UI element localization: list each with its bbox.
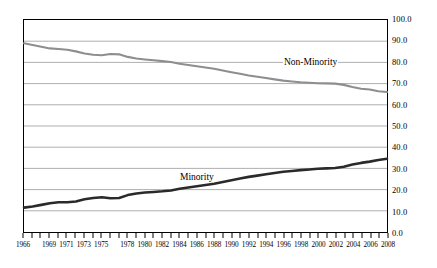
series-line-non-minority: [24, 43, 387, 92]
x-axis-tick: [327, 233, 328, 238]
x-axis-tick-label: 1996: [277, 241, 291, 249]
x-axis-tick: [240, 233, 241, 238]
x-axis-tick: [188, 233, 189, 238]
x-axis-tick: [361, 233, 362, 238]
x-axis-tick: [83, 233, 84, 238]
series-label-minority: Minority: [179, 172, 215, 182]
plot-area: [23, 19, 388, 233]
x-axis-tick-label: 1969: [42, 241, 56, 249]
x-axis-tick-label: 1980: [138, 241, 152, 249]
x-axis-tick: [275, 233, 276, 238]
x-axis-tick: [301, 233, 302, 238]
x-axis-tick-label: 1992: [242, 241, 256, 249]
x-axis-tick: [318, 233, 319, 238]
x-axis-tick-label: 1978: [120, 241, 134, 249]
x-axis-tick: [162, 233, 163, 238]
x-axis-tick: [127, 233, 128, 238]
series-label-non-minority: Non-Minority: [283, 57, 338, 67]
series-line-minority: [24, 159, 387, 208]
x-axis-tick: [205, 233, 206, 238]
x-axis-tick-label: 1998: [294, 241, 308, 249]
y-axis-tick-label: 30.0: [392, 164, 407, 173]
y-axis-tick-label: 90.0: [392, 36, 407, 45]
x-axis-tick: [266, 233, 267, 238]
x-axis-tick: [231, 233, 232, 238]
x-axis-tick: [57, 233, 58, 238]
x-axis-tick-label: 1971: [59, 241, 73, 249]
y-axis-tick-label: 70.0: [392, 79, 407, 88]
data-series-layer: [24, 20, 387, 232]
x-axis-tick: [66, 233, 67, 238]
y-axis-tick-label: 40.0: [392, 143, 407, 152]
y-axis-tick-label: 20.0: [392, 186, 407, 195]
x-axis-tick: [257, 233, 258, 238]
x-axis-tick-label: 2004: [346, 241, 360, 249]
x-axis-tick: [92, 233, 93, 238]
x-axis-tick: [379, 233, 380, 238]
y-axis-tick-label: 100.0: [392, 15, 412, 24]
x-axis-tick: [248, 233, 249, 238]
chart-container: Non-Minority Minority 0.010.020.030.040.…: [0, 0, 437, 268]
x-axis-tick-label: 1982: [155, 241, 169, 249]
x-axis-tick: [135, 233, 136, 238]
x-axis-tick: [23, 233, 24, 238]
x-axis-tick: [118, 233, 119, 238]
x-axis-tick: [222, 233, 223, 238]
x-axis-tick-label: 1975: [94, 241, 108, 249]
x-axis-tick: [109, 233, 110, 238]
x-axis-tick-label: 2000: [311, 241, 325, 249]
x-axis-tick: [214, 233, 215, 238]
x-axis-tick: [292, 233, 293, 238]
y-axis-tick-label: 0.0: [392, 229, 403, 238]
x-axis-tick: [153, 233, 154, 238]
x-axis-tick: [283, 233, 284, 238]
y-axis-tick-label: 50.0: [392, 122, 407, 131]
x-axis-tick-label: 2002: [329, 241, 343, 249]
x-axis-tick: [40, 233, 41, 238]
x-axis: 1966196919711973197519781980198219841986…: [23, 233, 388, 268]
x-axis-tick-label: 1966: [16, 241, 30, 249]
x-axis-tick: [370, 233, 371, 238]
x-axis-tick: [196, 233, 197, 238]
x-axis-tick: [31, 233, 32, 238]
x-axis-tick: [309, 233, 310, 238]
x-axis-tick-label: 1984: [172, 241, 186, 249]
x-axis-tick: [170, 233, 171, 238]
y-axis-tick-label: 10.0: [392, 207, 407, 216]
y-axis-tick-label: 80.0: [392, 57, 407, 66]
y-axis: 0.010.020.030.040.050.060.070.080.090.01…: [392, 19, 437, 233]
x-axis-tick: [144, 233, 145, 238]
x-axis-tick-label: 2006: [364, 241, 378, 249]
x-axis-tick-label: 1973: [77, 241, 91, 249]
x-axis-tick: [335, 233, 336, 238]
x-axis-tick-label: 1990: [224, 241, 238, 249]
x-axis-tick: [344, 233, 345, 238]
x-axis-tick-label: 2008: [381, 241, 395, 249]
x-axis-tick: [388, 233, 389, 238]
x-axis-tick-label: 1986: [190, 241, 204, 249]
x-axis-tick: [101, 233, 102, 238]
x-axis-tick: [49, 233, 50, 238]
x-axis-tick: [353, 233, 354, 238]
x-axis-tick-label: 1994: [259, 241, 273, 249]
x-axis-tick: [179, 233, 180, 238]
x-axis-tick-label: 1988: [207, 241, 221, 249]
y-axis-tick-label: 60.0: [392, 100, 407, 109]
x-axis-tick: [75, 233, 76, 238]
